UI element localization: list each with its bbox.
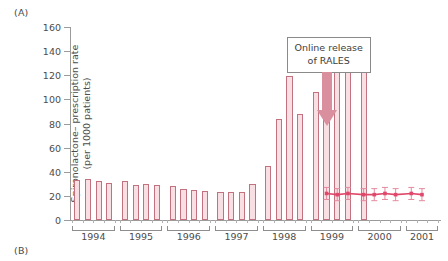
chart-figure: (A) (B) Spironolactone– prescription rat… [0, 0, 448, 261]
x-tick-mark [247, 220, 248, 223]
x-axis-label-2001: 2001 [406, 231, 438, 242]
x-axis-label-1997: 1997 [215, 231, 258, 242]
x-tick-mark [406, 220, 407, 223]
y-tick-label: 0 [55, 215, 61, 226]
x-tick-mark [343, 220, 344, 223]
x-tick-mark [72, 220, 73, 223]
x-tick-mark [120, 220, 121, 223]
x-tick-mark [199, 220, 200, 223]
x-tick-mark [295, 220, 296, 223]
x-tick-mark [115, 220, 116, 223]
line-marker [372, 193, 376, 197]
line-series-overlay [70, 27, 440, 220]
plot-area: Spironolactone– prescription rate (per 1… [70, 27, 440, 220]
line-marker [420, 193, 424, 197]
x-tick-mark [306, 220, 307, 223]
x-tick-mark [274, 220, 275, 223]
x-tick-mark [141, 220, 142, 223]
line-marker [346, 192, 350, 196]
x-tick-mark [284, 220, 285, 223]
y-tick-label: 40 [49, 166, 61, 177]
x-tick-mark [167, 220, 168, 223]
x-tick-mark [226, 220, 227, 223]
x-axis-label-1996: 1996 [167, 231, 210, 242]
x-tick-mark [263, 220, 264, 223]
annotation-line1: Online release [295, 42, 363, 53]
x-tick-mark [152, 220, 153, 223]
x-axis-label-1994: 1994 [72, 231, 115, 242]
x-tick-mark [332, 220, 333, 223]
annotation-line2: of RALES [308, 55, 350, 66]
x-tick-mark [162, 220, 163, 223]
x-tick-mark [427, 220, 428, 223]
x-tick-mark [215, 220, 216, 223]
x-tick-mark [311, 220, 312, 223]
panel-label-b: (B) [14, 245, 29, 256]
x-axis-label-1995: 1995 [120, 231, 163, 242]
line-marker [383, 192, 387, 196]
x-tick-mark [321, 220, 322, 223]
y-tick-label: 80 [49, 118, 61, 129]
x-axis-label-1998: 1998 [263, 231, 306, 242]
y-tick-label: 120 [43, 70, 61, 81]
x-axis-line [70, 220, 441, 221]
y-tick-label: 100 [43, 94, 61, 105]
y-tick-label: 140 [43, 46, 61, 57]
arrow-shape [317, 72, 337, 126]
y-tick-mark [64, 220, 70, 221]
y-tick-label: 20 [49, 190, 61, 201]
annotation-box: Online release of RALES [287, 37, 371, 73]
line-marker [394, 193, 398, 197]
x-tick-mark [358, 220, 359, 223]
y-tick-label: 160 [43, 22, 61, 33]
line-marker [362, 193, 366, 197]
x-tick-mark [210, 220, 211, 223]
x-tick-mark [401, 220, 402, 223]
line-marker [335, 193, 339, 197]
x-tick-mark [104, 220, 105, 223]
x-tick-mark [438, 220, 439, 223]
x-axis-label-2000: 2000 [358, 231, 401, 242]
x-tick-mark [236, 220, 237, 223]
line-marker [410, 192, 414, 196]
x-tick-mark [353, 220, 354, 223]
x-tick-mark [93, 220, 94, 223]
line-marker [325, 192, 329, 196]
x-tick-mark [390, 220, 391, 223]
x-tick-mark [380, 220, 381, 223]
x-tick-mark [189, 220, 190, 223]
x-tick-mark [369, 220, 370, 223]
x-tick-mark [417, 220, 418, 223]
y-tick-label: 60 [49, 142, 61, 153]
down-arrow-icon [316, 72, 338, 128]
x-tick-mark [258, 220, 259, 223]
panel-label-a: (A) [14, 7, 29, 18]
x-tick-mark [178, 220, 179, 223]
x-axis-label-1999: 1999 [311, 231, 354, 242]
x-tick-mark [83, 220, 84, 223]
x-tick-mark [130, 220, 131, 223]
